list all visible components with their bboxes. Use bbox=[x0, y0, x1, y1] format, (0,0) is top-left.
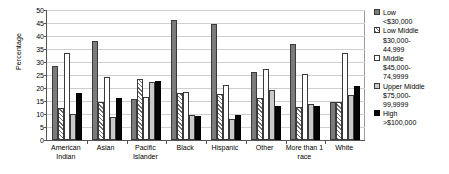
y-tick-mark bbox=[44, 140, 47, 141]
bar-group bbox=[206, 10, 246, 140]
bar bbox=[155, 81, 161, 140]
legend-swatch-icon bbox=[374, 9, 380, 15]
legend-label: High bbox=[383, 109, 397, 118]
legend-swatch-icon bbox=[374, 55, 380, 61]
y-tick-label: 20 bbox=[36, 85, 44, 92]
bar-group bbox=[325, 10, 365, 140]
x-axis-label: Hispanic bbox=[205, 144, 245, 161]
bar-group bbox=[47, 10, 87, 140]
x-axis-label: Pacific Islander bbox=[126, 144, 166, 161]
y-tick-label: 30 bbox=[36, 59, 44, 66]
bar bbox=[314, 106, 320, 140]
y-tick-label: 40 bbox=[36, 33, 44, 40]
bar-groups bbox=[47, 10, 365, 140]
plot-area: 50454035302520151050 bbox=[46, 10, 365, 141]
y-tick-label: 25 bbox=[36, 72, 44, 79]
legend-range-label: >$100,000 bbox=[383, 118, 449, 127]
legend-entry: High>$100,000 bbox=[374, 109, 449, 127]
y-tick-label: 5 bbox=[40, 124, 44, 131]
legend-label: Low Middle bbox=[383, 26, 418, 35]
bar-group bbox=[286, 10, 326, 140]
legend-label: Middle bbox=[383, 54, 404, 63]
legend-range-label: $75,000- 99,9999 bbox=[383, 91, 449, 109]
legend-range-label: $45,000- 74,9999 bbox=[383, 63, 449, 81]
y-tick-label: 50 bbox=[36, 7, 44, 14]
legend-label: Upper Middle bbox=[383, 82, 425, 91]
bar bbox=[195, 116, 201, 140]
y-tick-label: 35 bbox=[36, 46, 44, 53]
legend-entry: Upper Middle$75,000- 99,9999 bbox=[374, 82, 449, 110]
legend-entry: Middle$45,000- 74,9999 bbox=[374, 54, 449, 82]
x-axis-label: Black bbox=[165, 144, 205, 161]
y-axis-title: Percentage bbox=[15, 12, 22, 92]
bar-group bbox=[127, 10, 167, 140]
x-axis-label: White bbox=[324, 144, 364, 161]
x-axis-label: Other bbox=[245, 144, 285, 161]
y-tick-label: 10 bbox=[36, 111, 44, 118]
legend-entry: Low<$30,000 bbox=[374, 8, 449, 26]
legend-label: Low bbox=[383, 8, 396, 17]
x-axis-labels: American IndianAsianPacific IslanderBlac… bbox=[46, 144, 364, 161]
legend-swatch-icon bbox=[374, 27, 380, 33]
y-tick-label: 45 bbox=[36, 20, 44, 27]
bar bbox=[354, 86, 360, 140]
bar bbox=[275, 106, 281, 140]
bar-group bbox=[166, 10, 206, 140]
x-axis-label: American Indian bbox=[46, 144, 86, 161]
legend-swatch-icon bbox=[374, 110, 380, 116]
legend-entry: Low Middle$30,000- 44,999 bbox=[374, 26, 449, 54]
bar bbox=[235, 115, 241, 140]
bar-group bbox=[246, 10, 286, 140]
legend-range-label: $30,000- 44,999 bbox=[383, 36, 449, 54]
bar bbox=[116, 98, 122, 140]
x-axis-label: Asian bbox=[86, 144, 126, 161]
bar-group bbox=[87, 10, 127, 140]
y-tick-label: 0 bbox=[40, 137, 44, 144]
income-by-race-bar-chart: Percentage 50454035302520151050 American… bbox=[0, 0, 449, 174]
bar bbox=[76, 93, 82, 140]
legend-range-label: <$30,000 bbox=[383, 17, 449, 26]
legend-swatch-icon bbox=[374, 83, 380, 89]
y-tick-label: 15 bbox=[36, 98, 44, 105]
legend: Low<$30,000Low Middle$30,000- 44,999Midd… bbox=[374, 8, 449, 128]
x-axis-label: More than 1 race bbox=[285, 144, 325, 161]
